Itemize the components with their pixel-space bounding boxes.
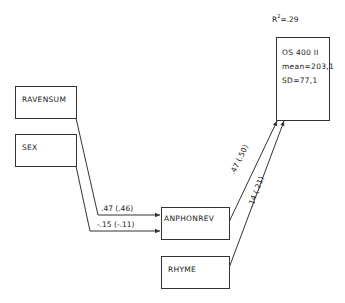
node-anphonrev: ANPHONREV xyxy=(161,207,230,240)
node-outcome: OS 400 II mean=203,1 SD=77,1 xyxy=(276,37,330,121)
node-ravensum: RAVENSUM xyxy=(15,86,77,119)
r-squared-label: R2=.29 xyxy=(272,13,299,24)
node-label: ANPHONREV xyxy=(164,214,214,223)
coef-ravensum-anphonrev: .47 (.46) xyxy=(101,204,133,213)
node-label: RHYME xyxy=(168,265,196,274)
outcome-sd: SD=77,1 xyxy=(282,74,329,88)
node-rhyme: RHYME xyxy=(161,256,230,289)
node-sex: SEX xyxy=(15,134,77,167)
outcome-mean: mean=203,1 xyxy=(282,60,329,74)
node-label: SEX xyxy=(22,143,38,152)
path-ravensum-anphonrev xyxy=(76,118,160,215)
outcome-title: OS 400 II xyxy=(282,46,329,60)
node-label: RAVENSUM xyxy=(22,95,66,104)
coef-sex-anphonrev: -.15 (-.11) xyxy=(97,220,135,229)
